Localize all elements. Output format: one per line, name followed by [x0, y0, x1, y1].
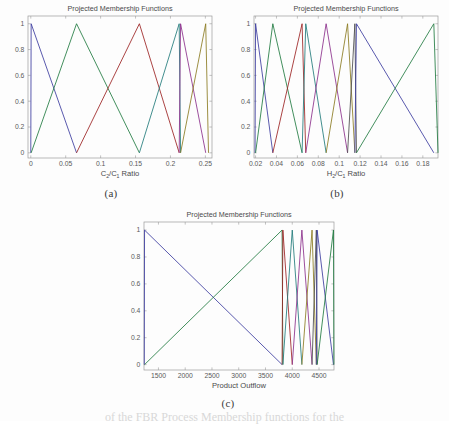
y-tick-label: 0.2	[15, 123, 25, 130]
cropped-body-text: of the FBR Process Membership functions …	[0, 410, 449, 425]
y-tick-label: 0	[21, 149, 25, 156]
x-tick-label: 0.18	[416, 160, 429, 167]
y-tick-label: 0.6	[131, 280, 141, 287]
x-tick-label: 0.16	[395, 160, 408, 167]
x-tick-label: 0.06	[291, 160, 304, 167]
y-tick-label: 0.6	[15, 72, 25, 79]
x-tick-label: 0.08	[312, 160, 325, 167]
y-tick-label: 0.2	[241, 123, 251, 130]
membership-function-curve	[356, 24, 438, 153]
panel-b-plot: Projected Membership Functions0.020.040.…	[226, 2, 448, 188]
y-tick-label: 0.8	[15, 46, 25, 53]
membership-function-curve	[31, 24, 139, 153]
membership-function-curve	[292, 230, 312, 365]
panel-b-chart: Projected Membership Functions0.020.040.…	[226, 2, 448, 188]
x-tick-label: 3500	[258, 372, 273, 379]
x-tick-label: 3000	[231, 372, 246, 379]
membership-function-curve	[326, 24, 355, 153]
x-tick-label: 2500	[204, 372, 219, 379]
panel-c-plot: Projected Membership Functions1500200025…	[112, 206, 344, 398]
axis-frame	[254, 16, 438, 158]
chart-title: Projected Membership Functions	[67, 4, 172, 13]
panel-a: Projected Membership Functions00.050.10.…	[0, 2, 222, 207]
membership-function-curve	[283, 230, 302, 365]
membership-function-curve	[77, 24, 180, 153]
membership-function-curve	[273, 24, 306, 153]
panel-c-chart: Projected Membership Functions1500200025…	[112, 206, 344, 398]
x-axis-label: Product Outflow	[212, 381, 267, 390]
x-tick-label: 0.05	[59, 160, 72, 167]
axis-frame	[144, 222, 334, 370]
x-tick-label: 0.1	[96, 160, 106, 167]
x-tick-label: 0.02	[249, 160, 262, 167]
y-tick-label: 0.8	[241, 46, 251, 53]
chart-title: Projected Membership Functions	[293, 4, 398, 13]
membership-function-curve	[302, 24, 326, 153]
x-axis-label: H2/C1 Ratio	[327, 169, 366, 179]
x-tick-label: 4000	[285, 372, 300, 379]
y-tick-label: 1	[21, 20, 25, 27]
panel-a-plot: Projected Membership Functions00.050.10.…	[0, 2, 222, 188]
y-tick-label: 0.4	[131, 307, 141, 314]
x-tick-label: 0.1	[334, 160, 344, 167]
x-tick-label: 4500	[311, 372, 326, 379]
x-tick-label: 0.12	[353, 160, 366, 167]
y-tick-label: 0.6	[241, 72, 251, 79]
y-tick-label: 1	[137, 226, 141, 233]
panel-a-caption: (a)	[0, 187, 222, 199]
y-tick-label: 0.2	[131, 334, 141, 341]
axis-frame	[28, 16, 212, 158]
membership-function-curve	[256, 24, 303, 153]
panel-a-chart: Projected Membership Functions00.050.10.…	[0, 2, 222, 188]
y-tick-label: 0.4	[15, 98, 25, 105]
membership-function-curve	[306, 24, 348, 153]
x-tick-label: 0	[29, 160, 33, 167]
x-tick-label: 0.15	[129, 160, 142, 167]
y-tick-label: 0	[137, 361, 141, 368]
x-tick-label: 0.04	[270, 160, 283, 167]
x-tick-label: 0.2	[166, 160, 176, 167]
panel-c-caption: (c)	[112, 397, 344, 409]
chart-title: Projected Membership Functions	[186, 210, 291, 219]
x-axis-label: C2/C1 Ratio	[101, 169, 140, 179]
x-tick-label: 0.25	[199, 160, 212, 167]
x-tick-label: 2000	[178, 372, 193, 379]
x-tick-label: 0.14	[374, 160, 387, 167]
panel-c: Projected Membership Functions1500200025…	[112, 206, 344, 418]
x-tick-label: 1500	[151, 372, 166, 379]
y-tick-label: 0.4	[241, 98, 251, 105]
panel-b-caption: (b)	[226, 187, 448, 199]
y-tick-label: 0.8	[131, 253, 141, 260]
panel-b: Projected Membership Functions0.020.040.…	[226, 2, 448, 207]
y-tick-label: 0	[247, 149, 251, 156]
y-tick-label: 1	[247, 20, 251, 27]
